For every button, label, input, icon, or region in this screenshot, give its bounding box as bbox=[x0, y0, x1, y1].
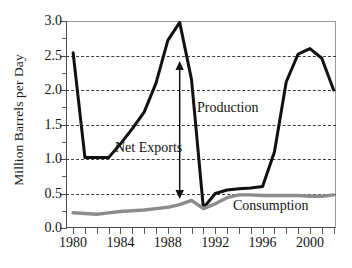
x-minor-tick bbox=[227, 228, 228, 234]
net-exports-arrow-head-bottom bbox=[175, 190, 183, 199]
y-tick-label: 0.0 bbox=[2, 221, 62, 235]
y-tick-label: 1.5 bbox=[2, 118, 62, 132]
x-minor-tick bbox=[322, 228, 323, 234]
x-minor-tick bbox=[156, 228, 157, 234]
x-minor-tick bbox=[85, 228, 86, 234]
x-minor-tick bbox=[168, 228, 169, 234]
series-layer bbox=[66, 21, 336, 228]
x-tick-label: 2000 bbox=[282, 236, 338, 250]
annotation-net-exports: Net Exports bbox=[115, 141, 182, 155]
x-minor-tick bbox=[97, 228, 98, 234]
y-tick-label: 2.5 bbox=[2, 49, 62, 63]
x-minor-tick bbox=[215, 228, 216, 234]
x-minor-tick bbox=[263, 228, 264, 234]
x-minor-tick bbox=[203, 228, 204, 234]
x-minor-tick bbox=[120, 228, 121, 234]
x-minor-tick bbox=[73, 228, 74, 234]
x-minor-tick bbox=[239, 228, 240, 234]
x-minor-tick bbox=[180, 228, 181, 234]
x-minor-tick bbox=[109, 228, 110, 234]
y-tick-label: 2.0 bbox=[2, 83, 62, 97]
annotation-consumption: Consumption bbox=[233, 199, 308, 213]
series-line-production bbox=[73, 22, 334, 208]
x-minor-tick bbox=[286, 228, 287, 234]
x-minor-tick bbox=[298, 228, 299, 234]
x-minor-tick bbox=[334, 228, 335, 234]
net-exports-arrow-head-top bbox=[175, 61, 183, 70]
x-minor-tick bbox=[310, 228, 311, 234]
x-minor-tick bbox=[144, 228, 145, 234]
x-minor-tick bbox=[251, 228, 252, 234]
y-tick-label: 0.5 bbox=[2, 187, 62, 201]
x-minor-tick bbox=[132, 228, 133, 234]
y-tick-label: 1.0 bbox=[2, 152, 62, 166]
x-minor-tick bbox=[192, 228, 193, 234]
chart-figure: Million Barrels per Day 3.02.52.01.51.00… bbox=[0, 0, 352, 268]
x-minor-tick bbox=[274, 228, 275, 234]
annotation-production: Production bbox=[197, 101, 258, 115]
y-tick-label: 3.0 bbox=[2, 14, 62, 28]
